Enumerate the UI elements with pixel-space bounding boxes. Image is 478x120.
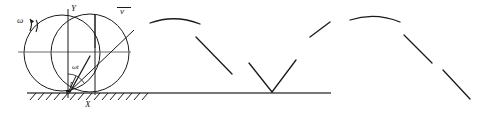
cycloid-segment-4 (249, 63, 272, 92)
cycloid-segment-6 (310, 22, 330, 37)
label-y-axis: Y (71, 4, 76, 13)
cycloid-segment-7 (350, 16, 400, 22)
figure-canvas (0, 0, 478, 120)
cycloid-segment-3 (196, 37, 232, 74)
label-angle-omega-t: ωt (72, 64, 79, 71)
cycloid-segment-8 (404, 35, 432, 63)
label-radius: r (70, 80, 73, 88)
label-velocity-vector-bar (117, 7, 131, 8)
cycloid-path (70, 16, 470, 99)
label-x-axis: X (85, 100, 91, 109)
label-angular-velocity: ω (17, 16, 23, 25)
cycloid-segment-2 (150, 19, 200, 24)
radius-vector-line (68, 30, 134, 93)
wheel-circle-right (51, 14, 129, 92)
omega-arrow-icon (30, 19, 32, 31)
cycloid-segment-9 (443, 70, 470, 99)
label-velocity: v (120, 7, 124, 16)
cycloid-segment-5 (272, 60, 296, 92)
cycloid-diagram: ω Y v ωt r X (0, 0, 478, 120)
omega-arrow-secondary-icon (36, 20, 38, 32)
